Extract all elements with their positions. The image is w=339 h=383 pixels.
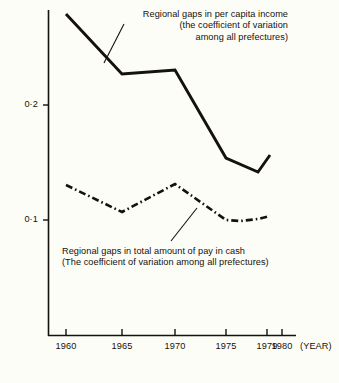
line-chart-figure: 0·2 0·1 1960 1965 1970 1975 1979 1980 (Y… <box>0 0 339 383</box>
y-tick-label-0.1: 0·1 <box>10 214 38 224</box>
leader-line-income-annotation <box>104 24 124 63</box>
x-tick-label-1980: 1980 <box>262 341 302 351</box>
x-tick-label-1965: 1965 <box>102 341 142 351</box>
series-pay-in-cash-line <box>66 184 270 221</box>
leader-line-pay-annotation <box>171 208 197 241</box>
income-annotation: Regional gaps in per capita income (the … <box>143 9 288 43</box>
income-annotation-line-1: Regional gaps in per capita income <box>143 9 288 20</box>
x-tick-label-1975: 1975 <box>206 341 246 351</box>
income-annotation-line-3: among all prefectures) <box>143 32 288 43</box>
y-tick-label-0.2: 0·2 <box>10 99 38 109</box>
pay-annotation-line-2: (The coefficient of variation among all … <box>62 257 269 268</box>
pay-annotation: Regional gaps in total amount of pay in … <box>62 246 269 269</box>
income-annotation-line-2: (the coefficient of variation <box>143 20 288 31</box>
x-axis-label: (YEAR) <box>300 341 332 351</box>
x-tick-label-1960: 1960 <box>46 341 86 351</box>
chart-plot-area <box>0 0 339 383</box>
pay-annotation-line-1: Regional gaps in total amount of pay in … <box>62 246 269 257</box>
x-tick-label-1970: 1970 <box>155 341 195 351</box>
